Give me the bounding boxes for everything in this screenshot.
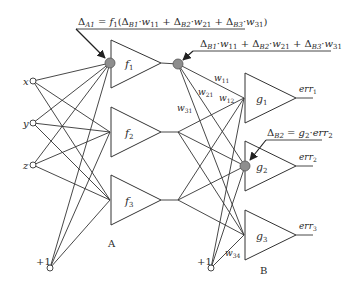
input-node-x bbox=[30, 78, 36, 84]
neuron-f3 bbox=[111, 175, 161, 225]
annotation-sum-b: ΔB1·w11 + ΔB2·w21 + ΔB3·w31 bbox=[200, 38, 342, 51]
input-node-z bbox=[30, 162, 36, 168]
weight-w31: w31 bbox=[177, 103, 192, 114]
output-err3: err3 bbox=[299, 221, 317, 232]
bias-label-a: +1 bbox=[36, 256, 51, 267]
neuron-g2 bbox=[245, 141, 296, 191]
weight-w12: w12 bbox=[219, 93, 235, 104]
neuron-f2 bbox=[111, 107, 161, 157]
annotation-delta-a1: ΔA1 = f1(ΔB1·w11 + ΔB2·w21 + ΔB3·w31) bbox=[78, 16, 268, 29]
neuron-g1 bbox=[245, 73, 296, 123]
input-label-y: y bbox=[22, 118, 29, 129]
neuron-f1 bbox=[111, 40, 161, 88]
weight-w11: w11 bbox=[214, 73, 229, 84]
highlight-node-f1-input bbox=[105, 58, 115, 68]
input-label-z: z bbox=[22, 160, 29, 171]
highlight-node-f1-output bbox=[173, 59, 183, 69]
highlight-node-g2-input bbox=[240, 161, 250, 171]
backprop-diagram: ΔA1 = f1(ΔB1·w11 + ΔB2·w21 + ΔB3·w31) ΔB… bbox=[0, 0, 351, 286]
layer-a-label: A bbox=[107, 238, 116, 249]
output-err2: err2 bbox=[299, 152, 317, 163]
output-err1: err1 bbox=[299, 84, 317, 95]
bias-label-b: +1 bbox=[197, 256, 212, 267]
annotation-delta-b2: ΔB2 = g2·err2 bbox=[267, 127, 333, 140]
weight-w21: w21 bbox=[198, 87, 213, 98]
arrow-icon bbox=[76, 29, 105, 58]
layer-b-label: B bbox=[260, 265, 267, 276]
weight-w34: w34 bbox=[225, 248, 241, 259]
input-node-y bbox=[30, 120, 36, 126]
input-to-layer-a-connections bbox=[33, 63, 110, 268]
neuron-g3 bbox=[245, 210, 296, 260]
arrow-icon bbox=[183, 51, 193, 60]
input-label-x: x bbox=[23, 76, 29, 87]
